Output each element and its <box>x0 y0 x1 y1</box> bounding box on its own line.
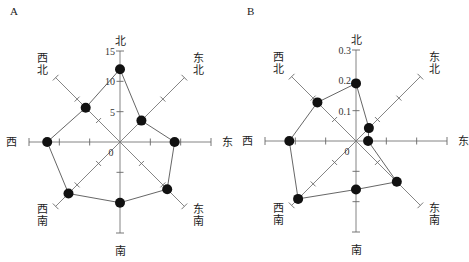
data-point-north <box>351 78 361 88</box>
tick-label-10: 10 <box>105 76 115 87</box>
direction-label-south: 南 <box>115 245 126 257</box>
data-point-east <box>363 136 373 146</box>
data-point-northwest <box>312 97 322 107</box>
data-point-northeast <box>136 116 146 126</box>
panel-label-b: B <box>247 5 254 17</box>
tick-label-0: 0 <box>109 147 114 158</box>
direction-label-south: 南 <box>351 244 362 256</box>
data-point-southeast <box>392 177 402 187</box>
panel-a: A 051015北南东西东北西北东南西南 <box>6 5 233 257</box>
data-polygon <box>47 69 174 203</box>
direction-label-southeast-line2: 南 <box>429 214 440 226</box>
tick-label-0: 0 <box>345 146 350 157</box>
data-point-south <box>115 198 125 208</box>
tick-label-5: 5 <box>110 107 115 118</box>
direction-label-northwest-line1: 西 <box>273 51 284 63</box>
data-point-southwest <box>64 189 74 199</box>
direction-label-east: 东 <box>222 136 233 148</box>
tick-label-0.2: 0.2 <box>339 75 352 86</box>
axis-northeast <box>120 78 184 142</box>
axis-southeast <box>356 141 420 205</box>
data-point-northwest <box>81 103 91 113</box>
direction-label-southwest-line1: 西 <box>37 203 48 215</box>
axis-southeast <box>120 142 184 206</box>
data-point-north <box>115 64 125 74</box>
data-point-west <box>284 136 294 146</box>
tick-label-0.3: 0.3 <box>339 45 352 56</box>
direction-label-northeast-line1: 东 <box>193 52 204 64</box>
direction-label-northwest-line2: 北 <box>273 63 284 75</box>
direction-label-north: 北 <box>115 35 126 47</box>
data-point-southeast <box>162 184 172 194</box>
direction-label-southeast-line2: 南 <box>193 215 204 227</box>
direction-label-southeast-line1: 东 <box>193 203 204 215</box>
data-point-northeast <box>364 123 374 133</box>
radar-charts: A 051015北南东西东北西北东南西南 B 00.10.20.3北南东西东北西… <box>0 0 469 262</box>
data-point-west <box>42 137 52 147</box>
direction-label-southwest-line1: 西 <box>273 202 284 214</box>
direction-label-east: 东 <box>458 135 469 147</box>
panel-label-a: A <box>10 5 18 17</box>
direction-label-west: 西 <box>242 135 253 147</box>
data-point-south <box>351 185 361 195</box>
direction-label-north: 北 <box>351 34 362 46</box>
direction-label-northwest-line2: 北 <box>37 64 48 76</box>
direction-label-northeast-line1: 东 <box>429 51 440 63</box>
direction-label-northwest-line1: 西 <box>37 52 48 64</box>
tick-label-0.1: 0.1 <box>339 106 352 117</box>
direction-label-west: 西 <box>6 136 17 148</box>
direction-label-southwest-line2: 南 <box>273 214 284 226</box>
tick-label-15: 15 <box>105 46 115 57</box>
data-point-southwest <box>293 194 303 204</box>
direction-label-southeast-line1: 东 <box>429 202 440 214</box>
direction-label-southwest-line2: 南 <box>37 215 48 227</box>
direction-label-northeast-line2: 北 <box>193 64 204 76</box>
panel-b: B 00.10.20.3北南东西东北西北东南西南 <box>242 5 469 256</box>
direction-label-northeast-line2: 北 <box>429 63 440 75</box>
data-point-east <box>170 137 180 147</box>
